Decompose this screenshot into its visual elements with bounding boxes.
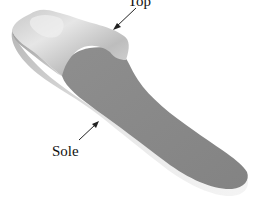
- top-arrow-line: [116, 8, 136, 27]
- top-label: Top: [128, 0, 151, 9]
- sole-label: Sole: [52, 144, 79, 159]
- insole-illustration: [0, 0, 266, 207]
- sole-arrow-line: [79, 124, 96, 140]
- insole-diagram: Top Sole: [0, 0, 266, 207]
- sole-face: [62, 47, 248, 189]
